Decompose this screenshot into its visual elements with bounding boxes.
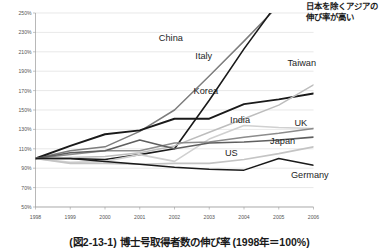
y-tick-label: 250% [18,10,31,16]
x-tick-label: 2005 [273,214,284,220]
figure: 日本を除くアジアの伸び率が高い 50%70%90%110%130%150%170… [0,0,379,248]
line-chart: 50%70%90%110%130%150%170%190%210%230%250… [0,0,379,232]
series-label-italy: Italy [195,51,212,61]
y-tick-label: 230% [18,29,31,35]
series-label-japan: Japan [270,136,295,146]
series-label-india: India [230,115,251,125]
x-tick-label: 2003 [204,214,215,220]
y-tick-label: 110% [19,146,32,152]
figure-caption: (図2-13-1) 博士号取得者数の伸び率 (1998年＝100%) [0,234,379,248]
y-tick-label: 210% [18,49,31,55]
x-tick-label: 2002 [169,214,180,220]
y-axis-tick-labels: 50%70%90%110%130%150%170%190%210%230%250… [18,10,31,210]
y-tick-label: 170% [18,88,31,94]
series-labels: ChinaItalyKoreaTaiwanIndiaUKJapanUSGerma… [159,33,329,180]
x-tick-label: 1998 [30,214,41,220]
series-label-us: US [225,148,238,158]
y-tick-label: 90% [21,165,32,171]
y-tick-label: 70% [21,185,32,191]
x-tick-label: 1999 [65,214,76,220]
y-tick-label: 190% [18,68,31,74]
series-label-germany: Germany [291,170,329,180]
y-tick-label: 130% [18,126,31,132]
x-tick-label: 2004 [238,214,249,220]
x-tick-label: 2001 [134,214,145,220]
x-axis-tick-labels: 199819992000200120022003200420052006 [30,214,319,220]
series-label-korea: Korea [194,86,219,96]
series-label-uk: UK [294,118,308,128]
series-label-taiwan: Taiwan [287,58,316,68]
y-tick-label: 50% [21,204,32,210]
chart-plot-area: 50%70%90%110%130%150%170%190%210%230%250… [0,0,379,232]
x-tick-label: 2000 [99,214,110,220]
x-tick-label: 2006 [308,214,319,220]
y-tick-label: 150% [18,107,31,113]
series-label-china: China [159,33,184,43]
